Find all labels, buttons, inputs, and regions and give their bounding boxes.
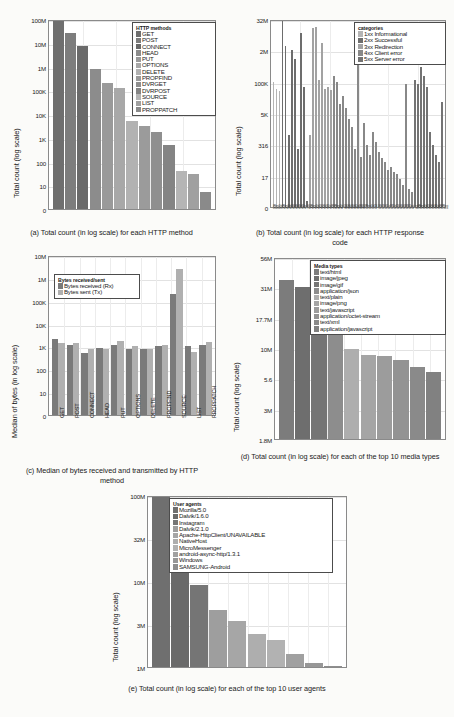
legend-swatch xyxy=(358,50,363,55)
bar xyxy=(58,343,64,415)
bar xyxy=(53,20,64,209)
bar xyxy=(139,126,150,209)
bar xyxy=(163,145,174,209)
bar xyxy=(393,172,395,207)
legend-swatch xyxy=(173,514,178,519)
panel-e-caption: (e) Total count (in log scale) for each … xyxy=(127,684,327,694)
ytick-label: 10M xyxy=(35,253,46,260)
bar xyxy=(300,33,302,207)
panel-e: Total count (log scale) 1M3M10M32M100M U… xyxy=(105,490,355,680)
bar xyxy=(378,152,380,207)
bar xyxy=(90,69,101,209)
bar xyxy=(318,80,320,207)
panel-c-caption: (c) Median of bytes received and transmi… xyxy=(22,466,202,485)
ytick-label: 17 xyxy=(262,173,268,180)
bar xyxy=(114,88,125,209)
bar xyxy=(312,28,314,207)
legend-swatch xyxy=(314,307,319,312)
bar xyxy=(176,269,182,415)
legend-row: PROPPATCH xyxy=(136,107,213,113)
ytick-label: 32M xyxy=(257,17,268,24)
ytick-label: 316 xyxy=(258,142,268,149)
legend-swatch xyxy=(173,558,178,563)
panel-c-ytick-labels: 0101001K10K100K1M10M xyxy=(4,250,46,425)
panel-c-legend: Bytes received/sent Bytes received (Rx)B… xyxy=(54,274,140,299)
bar xyxy=(348,119,350,207)
bar xyxy=(191,352,197,416)
ytick-label: 1M xyxy=(137,665,145,672)
legend-swatch xyxy=(314,288,319,293)
ytick-label: 31M xyxy=(261,285,272,292)
bar-group xyxy=(111,341,124,415)
legend-swatch xyxy=(58,283,63,288)
bar xyxy=(295,287,310,439)
legend-swatch xyxy=(173,533,178,538)
bar xyxy=(429,132,431,207)
legend-swatch xyxy=(358,57,363,62)
panel-a-ytick-labels: 0101001K10K100K1M10M100M xyxy=(4,8,46,218)
bar xyxy=(432,145,434,207)
bar xyxy=(333,76,335,207)
xtick-label: HEAD xyxy=(104,403,110,418)
ytick-label: 56M xyxy=(261,255,272,262)
bar xyxy=(188,174,199,209)
legend-label: PROPPATCH xyxy=(142,107,177,113)
bar xyxy=(344,349,359,439)
bar xyxy=(381,158,383,207)
legend-swatch xyxy=(173,520,178,525)
bar xyxy=(369,155,371,207)
bar xyxy=(248,634,266,667)
figure-root: Total count (log scale) 0101001K10K100K1… xyxy=(0,0,454,717)
xtick-label: POST xyxy=(74,404,80,418)
legend-label: SAMSUNG-Android xyxy=(179,564,230,570)
panel-a: Total count (log scale) 0101001K10K100K1… xyxy=(4,8,219,218)
bar xyxy=(339,104,341,207)
bar xyxy=(309,135,311,207)
ytick-label: 10 xyxy=(40,390,46,397)
panel-e-ytick-labels: 1M3M10M32M100M xyxy=(105,490,145,670)
legend-swatch xyxy=(136,107,141,112)
xtick-label: GET xyxy=(59,407,65,418)
bar xyxy=(328,326,343,439)
bar xyxy=(330,90,332,207)
xtick-label: OPTIONS xyxy=(135,394,141,418)
bar xyxy=(273,82,275,207)
panel-c-xtick-labels: GETPOSTCONNECTHEADPUTOPTIONSDELETEPROPFI… xyxy=(48,418,216,463)
legend-swatch xyxy=(314,269,319,274)
legend-swatch xyxy=(136,57,141,62)
panel-d-caption: (d) Total count (in log scale) for each … xyxy=(240,452,440,462)
legend-swatch xyxy=(314,301,319,306)
legend-label: application/javascript xyxy=(320,326,372,332)
ytick-label: 1.8M xyxy=(259,437,272,444)
bar xyxy=(435,155,437,207)
panel-d-ytick-labels: 1.8M3M5.610M17.7M31M56M xyxy=(226,250,272,440)
legend-swatch xyxy=(136,63,141,68)
bar xyxy=(393,360,408,439)
legend-swatch xyxy=(173,539,178,544)
ytick-label: 10K xyxy=(36,321,46,328)
panel-a-legend: HTTP methods GETPOSTCONNECTHEADPUTOPTION… xyxy=(132,22,216,116)
bar xyxy=(286,654,304,667)
bar xyxy=(152,496,170,667)
legend-swatch xyxy=(173,545,178,550)
xtick-label: DELETE xyxy=(150,397,156,418)
ytick-label: 3M xyxy=(264,406,272,413)
legend-row: SAMSUNG-Android xyxy=(173,564,330,570)
ytick-label: 1K xyxy=(39,344,46,351)
panel-b-xtick-labels: 1001011022002012022032042052062072263003… xyxy=(270,209,446,226)
panel-e-legend: User agents Mozilla/5.0Dalvik/1.6.0Insta… xyxy=(169,498,333,573)
legend-row: 5xx Server error xyxy=(358,56,443,62)
panel-a-caption: (a) Total count (in log scale) for each … xyxy=(4,228,219,238)
legend-swatch xyxy=(173,552,178,557)
bar xyxy=(399,179,401,207)
legend-label: 5xx Server error xyxy=(364,56,404,62)
bar xyxy=(351,127,353,207)
bar xyxy=(420,67,422,207)
bar xyxy=(327,87,329,207)
bar xyxy=(291,50,293,207)
bar xyxy=(279,91,281,207)
bar xyxy=(336,82,338,207)
ytick-label: 0 xyxy=(43,413,46,420)
legend-swatch xyxy=(358,31,363,36)
bar xyxy=(200,192,211,209)
